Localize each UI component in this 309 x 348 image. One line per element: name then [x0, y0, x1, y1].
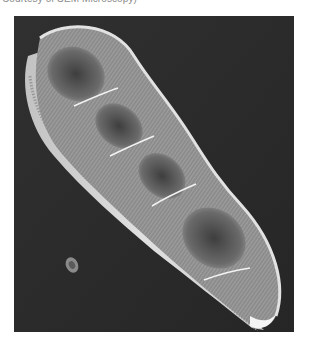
figure-caption: Courtesy of SEM Microscopy) — [2, 0, 137, 4]
diatom-illustration — [14, 16, 294, 332]
micrograph-image — [14, 16, 294, 332]
